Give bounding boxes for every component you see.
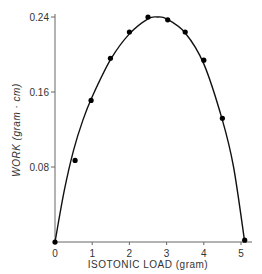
x-tick-label: 5: [238, 248, 244, 259]
data-point: [108, 56, 113, 61]
x-tick-label: 0: [52, 248, 58, 259]
y-tick-label: 0.08: [30, 162, 50, 173]
data-point: [220, 116, 225, 121]
data-point: [72, 158, 77, 163]
data-point: [88, 98, 93, 103]
y-tick-label: 0.16: [30, 87, 50, 98]
data-point: [127, 29, 132, 34]
fitted-curve: [55, 17, 245, 242]
work-vs-load-chart: 0123450.080.160.24 ISOTONIC LOAD (gram) …: [0, 0, 262, 274]
fitted-curve-path: [55, 17, 245, 242]
x-tick-label: 2: [127, 248, 133, 259]
data-point: [242, 238, 247, 243]
data-point: [52, 239, 57, 244]
x-tick-label: 1: [89, 248, 95, 259]
x-axis-title: ISOTONIC LOAD (gram): [88, 259, 208, 270]
x-tick-label: 4: [201, 248, 207, 259]
data-points: [52, 14, 247, 244]
y-tick-label: 0.24: [30, 12, 50, 23]
x-tick-label: 3: [164, 248, 170, 259]
data-point: [165, 17, 170, 22]
data-point: [201, 58, 206, 63]
y-axis-title: WORK (gram · cm): [11, 83, 22, 177]
data-point: [145, 14, 150, 19]
axes: 0123450.080.160.24: [30, 12, 252, 260]
data-point: [183, 29, 188, 34]
